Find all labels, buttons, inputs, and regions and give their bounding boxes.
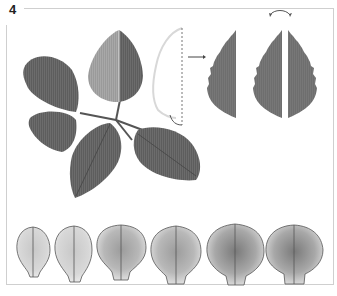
petal-3: [97, 225, 146, 280]
leaf-template-half: [207, 30, 236, 118]
leaf-template-mirrored: [253, 11, 317, 119]
leaflet-bottom-right: [134, 127, 200, 180]
illustration: [0, 0, 337, 296]
arrow-right-icon: [188, 55, 206, 59]
petal-4: [151, 226, 201, 284]
petal-5: [207, 224, 264, 285]
petal-sequence: [17, 224, 323, 285]
flip-arc-icon: [270, 11, 290, 16]
leaflet-bottom-middle: [70, 123, 121, 198]
rose-leaf-cluster: [23, 30, 200, 198]
leaflet-left-lower: [29, 111, 77, 152]
leaflet-left-upper: [23, 56, 78, 112]
leaflet-top-dark-half: [119, 30, 143, 102]
petal-6: [266, 225, 323, 284]
leaflet-top-highlighted-half: [88, 30, 119, 102]
petal-1: [17, 227, 50, 277]
petal-2: [55, 226, 92, 282]
leaf-outline-tracing: [153, 28, 182, 125]
